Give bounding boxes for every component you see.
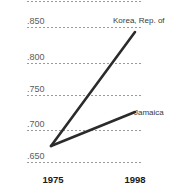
- series-annotation-korea: Korea, Rep. of: [113, 17, 165, 25]
- data-series: [51, 32, 135, 146]
- ytick-label-650: .650: [27, 152, 45, 161]
- ytick-label-750: .750: [27, 85, 45, 94]
- ytick-label-800: .800: [27, 53, 45, 62]
- ytick-label-700: .700: [27, 120, 45, 129]
- line-chart: .850 .800 .750 .700 .650 1975 1998 Korea…: [0, 0, 178, 196]
- ytick-label-850: .850: [27, 17, 45, 26]
- chart-plot-area: [0, 0, 178, 196]
- series-annotation-jamaica: Jamaica: [134, 109, 164, 117]
- xtick-label-1975: 1975: [31, 175, 75, 185]
- xtick-label-1998: 1998: [113, 175, 157, 185]
